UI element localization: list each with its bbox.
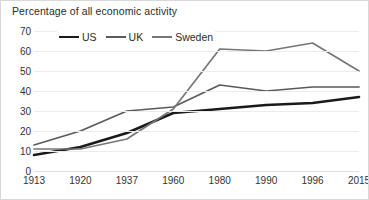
x-tick-label: 2015: [348, 175, 369, 186]
y-tick-label: 70: [5, 26, 31, 37]
y-tick-label: 10: [5, 146, 31, 157]
x-tick-label: 1980: [209, 175, 231, 186]
x-axis: 19131920193719601980199019962015: [34, 175, 359, 195]
gridline: [34, 71, 359, 72]
series-line-us: [34, 97, 359, 155]
y-tick-label: 60: [5, 46, 31, 57]
chart-figure: Percentage of all economic activity 0102…: [0, 0, 369, 200]
legend-swatch-icon: [106, 36, 126, 38]
x-tick-label: 1960: [162, 175, 184, 186]
legend-item-us[interactable]: US: [59, 31, 97, 43]
x-tick-label: 1937: [116, 175, 138, 186]
chart-title: Percentage of all economic activity: [12, 5, 177, 17]
gridline: [34, 131, 359, 132]
legend-item-sweden[interactable]: Sweden: [152, 31, 213, 43]
series-container: [34, 31, 359, 171]
x-tick-label: 1990: [255, 175, 277, 186]
legend-label: UK: [129, 31, 144, 43]
y-tick-label: 40: [5, 86, 31, 97]
y-tick-label: 30: [5, 106, 31, 117]
y-tick-label: 50: [5, 66, 31, 77]
y-tick-label: 20: [5, 126, 31, 137]
gridline: [34, 51, 359, 52]
legend-swatch-icon: [59, 36, 79, 38]
series-line-uk: [34, 85, 359, 145]
x-tick-label: 1996: [301, 175, 323, 186]
gridline: [34, 111, 359, 112]
x-tick-label: 1913: [23, 175, 45, 186]
chart-legend: USUKSweden: [57, 30, 215, 44]
legend-label: Sweden: [175, 31, 213, 43]
gridline: [34, 171, 359, 172]
gridline: [34, 151, 359, 152]
legend-item-uk[interactable]: UK: [106, 31, 144, 43]
y-axis: 010203040506070: [1, 31, 31, 171]
legend-label: US: [82, 31, 97, 43]
legend-swatch-icon: [152, 36, 172, 38]
plot-area: [34, 31, 359, 171]
x-tick-label: 1920: [69, 175, 91, 186]
gridline: [34, 91, 359, 92]
